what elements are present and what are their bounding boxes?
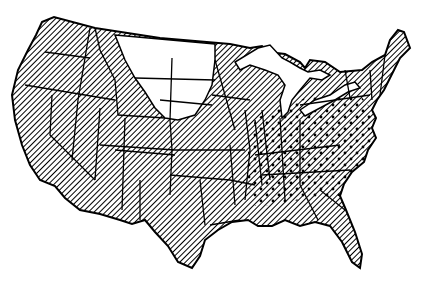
us-map	[0, 0, 432, 298]
